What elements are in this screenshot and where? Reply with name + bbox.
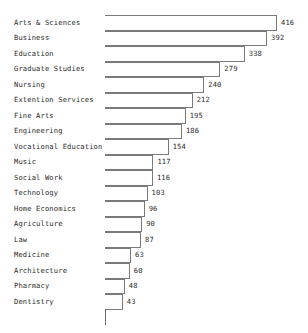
- bar: [105, 77, 204, 93]
- bar-category-label: Agriculture: [14, 221, 63, 228]
- bar-row: Social Work116: [0, 170, 308, 186]
- bar-value-label: 90: [146, 221, 155, 228]
- bar: [105, 217, 142, 233]
- bar-category-label: Extention Services: [14, 97, 94, 104]
- bar-category-label: Vocational Education: [14, 143, 102, 150]
- bar-chart: Arts & Sciences416Business392Education33…: [0, 0, 308, 333]
- bar: [105, 139, 169, 155]
- bar: [105, 201, 145, 217]
- bar-category-label: Arts & Sciences: [14, 19, 80, 26]
- bar-row: Medicine63: [0, 248, 308, 264]
- bar-category-label: Graduate Studies: [14, 66, 85, 73]
- bar-category-label: Pharmacy: [14, 283, 49, 290]
- bar-value-label: 416: [281, 19, 294, 26]
- bar-value-label: 60: [134, 267, 143, 274]
- bar-value-label: 338: [249, 50, 262, 57]
- bar-row: Vocational Education154: [0, 139, 308, 155]
- bar-value-label: 43: [127, 298, 136, 305]
- bar: [105, 155, 153, 171]
- bar-row: Law87: [0, 232, 308, 248]
- bar-value-label: 212: [197, 97, 210, 104]
- bar-category-label: Engineering: [14, 128, 63, 135]
- bar-category-label: Technology: [14, 190, 58, 197]
- bar: [105, 263, 130, 279]
- bar-value-label: 116: [157, 174, 170, 181]
- bar-row: Music117: [0, 155, 308, 171]
- bar: [105, 46, 245, 62]
- bar: [105, 108, 186, 124]
- bar-row: Home Economics96: [0, 201, 308, 217]
- bar-category-label: Architecture: [14, 267, 67, 274]
- bar-value-label: 117: [157, 159, 170, 166]
- plot-area: Arts & Sciences416Business392Education33…: [0, 0, 308, 333]
- bar-category-label: Home Economics: [14, 205, 76, 212]
- bar-value-label: 96: [149, 205, 158, 212]
- bar-row: Agriculture90: [0, 217, 308, 233]
- bar-value-label: 63: [135, 252, 144, 259]
- bar-value-label: 392: [271, 35, 284, 42]
- bar: [105, 186, 148, 202]
- bar: [105, 279, 125, 295]
- bar-row: Business392: [0, 31, 308, 47]
- bar-category-label: Business: [14, 35, 49, 42]
- bar-rows: Arts & Sciences416Business392Education33…: [0, 15, 308, 310]
- bar-category-label: Nursing: [14, 81, 45, 88]
- bar-value-label: 279: [224, 66, 237, 73]
- bar: [105, 15, 277, 31]
- bar-row: Engineering186: [0, 124, 308, 140]
- bar-row: Graduate Studies279: [0, 62, 308, 78]
- bar-value-label: 154: [173, 143, 186, 150]
- bar: [105, 124, 182, 140]
- bar-row: Arts & Sciences416: [0, 15, 308, 31]
- bar: [105, 248, 131, 264]
- bar-row: Extention Services212: [0, 93, 308, 109]
- bar: [105, 93, 193, 109]
- bar: [105, 294, 123, 310]
- bar-row: Pharmacy48: [0, 279, 308, 295]
- bar-row: Education338: [0, 46, 308, 62]
- bar-category-label: Dentistry: [14, 298, 54, 305]
- bar-value-label: 195: [190, 112, 203, 119]
- bar-value-label: 240: [208, 81, 221, 88]
- bar: [105, 62, 220, 78]
- bar-row: Fine Arts195: [0, 108, 308, 124]
- bar-category-label: Social Work: [14, 174, 63, 181]
- bar-category-label: Law: [14, 236, 27, 243]
- bar: [105, 170, 153, 186]
- bar-value-label: 48: [129, 283, 138, 290]
- bar-category-label: Fine Arts: [14, 112, 54, 119]
- bar-value-label: 186: [186, 128, 199, 135]
- bar-category-label: Education: [14, 50, 54, 57]
- bar-category-label: Medicine: [14, 252, 49, 259]
- bar-row: Architecture60: [0, 263, 308, 279]
- bar: [105, 31, 267, 47]
- bar-value-label: 103: [152, 190, 165, 197]
- bar-category-label: Music: [14, 159, 36, 166]
- bar-row: Nursing240: [0, 77, 308, 93]
- bar: [105, 232, 141, 248]
- bar-row: Technology103: [0, 186, 308, 202]
- bar-row: Dentistry43: [0, 294, 308, 310]
- bar-value-label: 87: [145, 236, 154, 243]
